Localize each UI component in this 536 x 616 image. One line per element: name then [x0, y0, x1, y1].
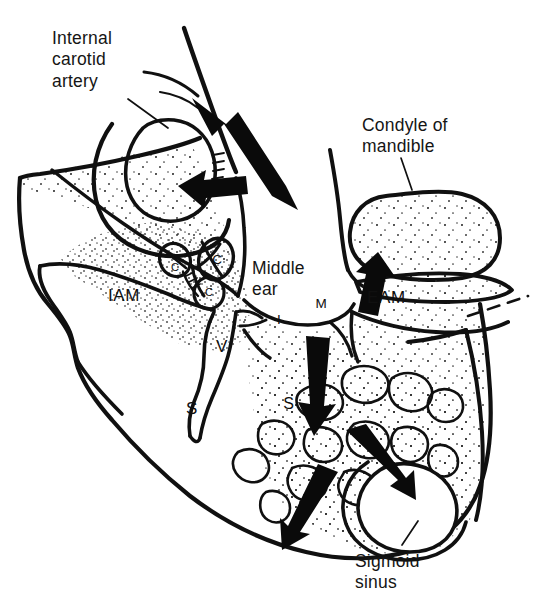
marker-sinus-s: S	[282, 395, 295, 413]
figure-linework	[0, 0, 536, 616]
label-iam: IAM	[108, 286, 140, 306]
label-condyle-of-mandible: Condyle of mandible	[362, 115, 448, 158]
label-stylomastoid-s: S	[186, 399, 198, 419]
marker-canal-c-lower: C	[203, 286, 215, 298]
leader-condyle	[401, 158, 412, 190]
label-vestibule-v: V	[216, 337, 228, 357]
marker-canal-c-upper-left: C	[169, 261, 181, 273]
anatomical-figure: Internal carotid artery Condyle of mandi…	[0, 0, 536, 616]
marker-ossicle-incus: I	[274, 312, 284, 327]
marker-canal-c-upper-right: C	[211, 252, 223, 267]
label-eam: EAM	[367, 288, 406, 308]
marker-ossicle-malleus: M	[314, 296, 328, 311]
label-middle-ear: Middle ear	[252, 258, 305, 301]
label-internal-carotid-artery: Internal carotid artery	[52, 28, 112, 92]
label-sigmoid-sinus: Sigmoid sinus	[355, 551, 420, 594]
